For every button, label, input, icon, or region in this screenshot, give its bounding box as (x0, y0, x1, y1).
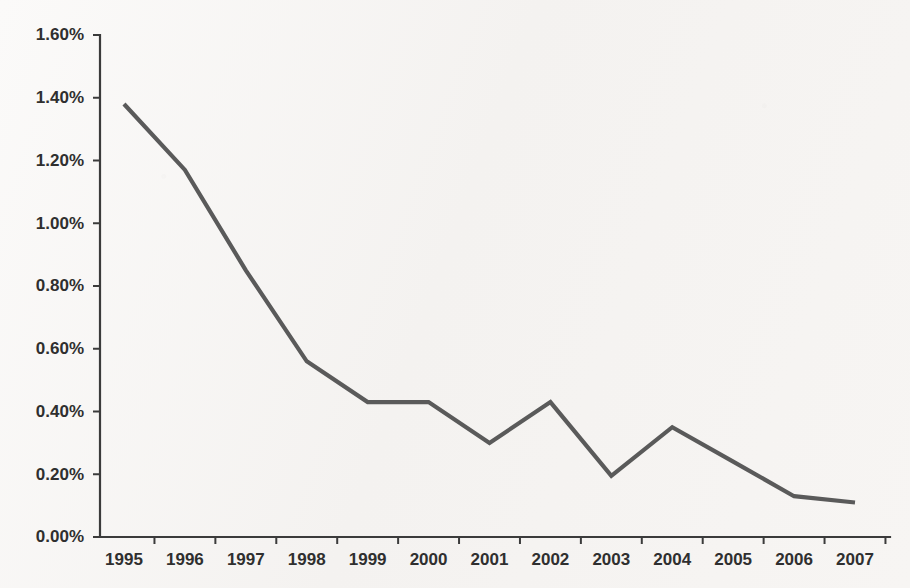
x-axis-tick-label: 1996 (166, 550, 204, 569)
y-axis-tick-label: 1.20% (36, 151, 84, 170)
y-axis-tick-label: 0.00% (36, 527, 84, 546)
y-axis-tick-label: 0.60% (36, 339, 84, 358)
x-axis-tick-label: 2007 (836, 550, 874, 569)
x-axis-tick-label: 1999 (349, 550, 387, 569)
x-axis-tick-label: 2004 (653, 550, 691, 569)
x-axis-tick-label: 2003 (592, 550, 630, 569)
x-axis-tick-labels: 1995199619971998199920002001200220032004… (105, 550, 874, 569)
x-axis-tick-label: 2002 (532, 550, 570, 569)
x-axis-tick-label: 2006 (775, 550, 813, 569)
y-axis-tick-label: 1.60% (36, 25, 84, 44)
line-chart: 0.00%0.20%0.40%0.60%0.80%1.00%1.20%1.40%… (0, 0, 910, 588)
y-axis-tick-label: 0.40% (36, 402, 84, 421)
chart-container: 0.00%0.20%0.40%0.60%0.80%1.00%1.20%1.40%… (0, 0, 910, 588)
x-axis-tick-label: 2000 (410, 550, 448, 569)
y-axis-tick-label: 1.00% (36, 214, 84, 233)
x-axis-tick-label: 2005 (714, 550, 752, 569)
data-series-line (124, 104, 855, 502)
x-axis-tick-label: 1998 (288, 550, 326, 569)
y-axis-tick-label: 1.40% (36, 88, 84, 107)
x-axis-tick-label: 1997 (227, 550, 265, 569)
y-axis-tick-label: 0.20% (36, 465, 84, 484)
x-axis-tick-label: 1995 (105, 550, 143, 569)
x-axis-tick-label: 2001 (471, 550, 509, 569)
y-axis-tick-labels: 0.00%0.20%0.40%0.60%0.80%1.00%1.20%1.40%… (36, 25, 84, 546)
y-axis-tick-label: 0.80% (36, 276, 84, 295)
